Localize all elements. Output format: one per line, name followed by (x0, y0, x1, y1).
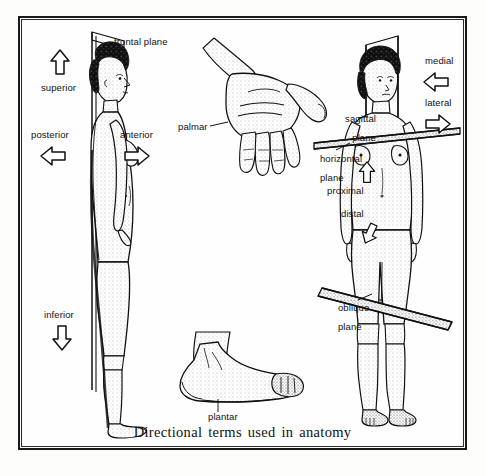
label-inferior: inferior (44, 310, 74, 321)
figure-border-outer (18, 16, 467, 450)
arrow-distal-icon (355, 218, 385, 248)
label-medial: medial (425, 56, 454, 67)
label-oblique-plane-line1: oblique (338, 302, 369, 313)
anatomy-directional-terms-figure: superior inferior posterior anterior fro… (0, 0, 485, 476)
label-frontal-plane: frontal plane (114, 37, 168, 48)
label-superior: superior (41, 83, 76, 94)
label-plantar: plantar (208, 412, 238, 423)
label-posterior: posterior (31, 130, 69, 141)
figure-caption: Directional terms used in anatomy (0, 424, 485, 441)
label-oblique-plane-line2: plane (338, 321, 362, 332)
arrow-posterior-icon (38, 142, 70, 170)
arrow-medial-icon (421, 68, 453, 96)
label-sagittal-plane-line1: sagittal (345, 113, 376, 124)
label-anterior: anterior (120, 130, 153, 141)
arrow-proximal-icon (353, 158, 381, 188)
arrow-superior-icon (45, 48, 75, 78)
label-horizontal-plane-line2: plane (320, 172, 344, 183)
label-lateral: lateral (425, 98, 452, 109)
arrow-inferior-icon (47, 322, 77, 352)
arrow-lateral-icon (421, 110, 453, 138)
label-oblique-plane: oblique plane (327, 293, 373, 341)
label-palmar: palmar (178, 122, 208, 133)
label-sagittal-plane-line2: plane (352, 132, 376, 143)
arrow-anterior-icon (120, 142, 152, 170)
